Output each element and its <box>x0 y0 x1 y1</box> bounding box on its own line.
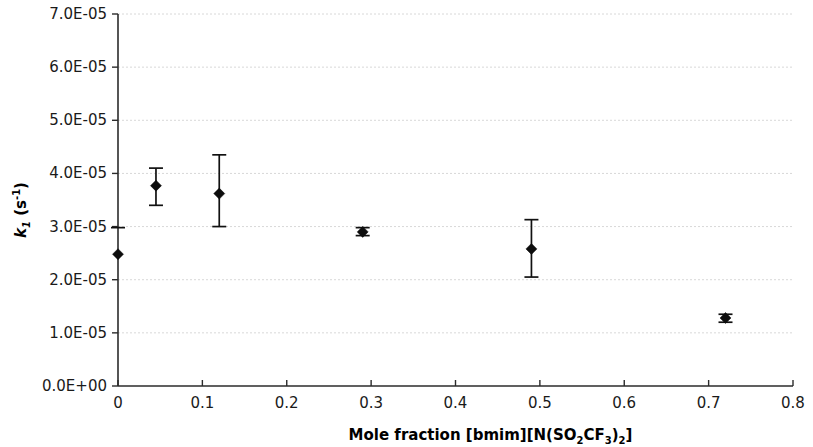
x-tick-label: 0.5 <box>528 394 552 412</box>
y-tick-label: 6.0E-05 <box>49 58 107 76</box>
y-tick-label: 4.0E-05 <box>49 164 107 182</box>
data-point <box>524 220 538 277</box>
data-series-group <box>111 155 733 324</box>
chart-container: 0.0E+001.0E-052.0E-053.0E-054.0E-055.0E-… <box>0 0 813 447</box>
x-tick-label: 0.6 <box>612 394 636 412</box>
scatter-plot-svg: 0.0E+001.0E-052.0E-053.0E-054.0E-055.0E-… <box>0 0 813 447</box>
x-tick-labels-group: 00.10.20.30.40.50.60.70.8 <box>113 394 805 412</box>
data-point-marker <box>214 188 225 199</box>
x-tick-label: 0.7 <box>697 394 721 412</box>
data-point <box>356 226 370 237</box>
y-tick-label: 0.0E+00 <box>42 377 107 395</box>
data-series <box>113 155 733 324</box>
y-axis-title: k1 (s-1) <box>11 182 32 238</box>
y-tick-label: 3.0E-05 <box>49 218 107 236</box>
y-tick-label: 2.0E-05 <box>49 271 107 289</box>
x-axis-title: Mole fraction [bmim][N(SO2CF3)2] <box>349 426 633 446</box>
axis-title-text: Mole fraction [bmim][N(SO2CF3)2] <box>349 426 633 446</box>
data-point <box>212 155 226 227</box>
x-tick-label: 0.2 <box>275 394 299 412</box>
y-tick-marks-group <box>112 14 118 386</box>
x-tick-label: 0.4 <box>444 394 468 412</box>
y-tick-label: 5.0E-05 <box>49 111 107 129</box>
y-tick-labels-group: 0.0E+001.0E-052.0E-053.0E-054.0E-055.0E-… <box>42 5 107 395</box>
x-tick-marks-group <box>118 380 793 386</box>
data-point <box>719 312 733 323</box>
data-point-marker <box>526 243 537 254</box>
data-point-marker <box>113 249 124 260</box>
y-tick-label: 1.0E-05 <box>49 324 107 342</box>
x-tick-label: 0.3 <box>359 394 383 412</box>
x-tick-label: 0.8 <box>781 394 805 412</box>
data-point-marker <box>150 180 161 191</box>
y-tick-label: 7.0E-05 <box>49 5 107 23</box>
data-point <box>113 249 124 260</box>
axis-title-text: k1 (s-1) <box>11 182 32 238</box>
x-tick-label: 0.1 <box>190 394 214 412</box>
x-tick-label: 0 <box>113 394 123 412</box>
